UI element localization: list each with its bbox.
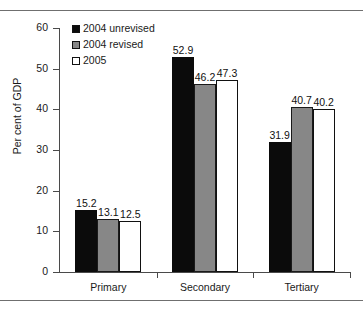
x-axis-category-label: Tertiary bbox=[253, 281, 350, 293]
bar-group: 52.946.247.3 bbox=[172, 28, 238, 272]
bar[interactable] bbox=[75, 210, 97, 272]
y-axis-tick bbox=[53, 28, 59, 29]
bar[interactable] bbox=[291, 107, 313, 273]
bar-value-label: 47.3 bbox=[210, 68, 244, 79]
y-axis-tick bbox=[53, 191, 59, 192]
y-axis-tick-label: 50 bbox=[0, 63, 48, 73]
plot-area: 15.213.112.552.946.247.331.940.740.2 bbox=[60, 28, 350, 272]
y-axis-tick-label: 10 bbox=[0, 225, 48, 235]
y-axis-tick bbox=[53, 109, 59, 110]
y-axis-tick bbox=[53, 150, 59, 151]
y-axis-tick bbox=[53, 231, 59, 232]
bar[interactable] bbox=[269, 142, 291, 272]
bar-value-label: 12.5 bbox=[113, 209, 147, 220]
y-axis-title: Per cent of GDP bbox=[11, 61, 23, 171]
x-axis-tick bbox=[157, 272, 158, 278]
x-axis-category-label: Primary bbox=[60, 281, 157, 293]
x-axis-tick bbox=[350, 272, 351, 278]
y-axis-tick-label: 40 bbox=[0, 103, 48, 113]
y-axis-tick-label: 20 bbox=[0, 185, 48, 195]
bar-value-label: 40.2 bbox=[307, 97, 341, 108]
figure-container: Per cent of GDP 0102030405060 2004 unrev… bbox=[0, 0, 363, 315]
y-axis-tick bbox=[53, 69, 59, 70]
bar-group: 15.213.112.5 bbox=[75, 28, 141, 272]
y-axis-tick-label: 0 bbox=[0, 266, 48, 276]
bar[interactable] bbox=[216, 80, 238, 272]
bar-group: 31.940.740.2 bbox=[269, 28, 335, 272]
x-axis-line bbox=[59, 272, 350, 273]
y-axis-tick-label: 30 bbox=[0, 144, 48, 154]
bar[interactable] bbox=[313, 109, 335, 272]
y-axis-tick bbox=[53, 272, 59, 273]
bar-value-label: 52.9 bbox=[166, 45, 200, 56]
x-axis-category-label: Secondary bbox=[157, 281, 254, 293]
bar[interactable] bbox=[119, 221, 141, 272]
bar[interactable] bbox=[97, 219, 119, 272]
bar[interactable] bbox=[172, 57, 194, 272]
y-axis-tick-label: 60 bbox=[0, 22, 48, 32]
x-axis-tick bbox=[253, 272, 254, 278]
bar[interactable] bbox=[194, 84, 216, 272]
top-divider-rule bbox=[0, 10, 363, 11]
bottom-divider-rule bbox=[0, 300, 363, 301]
